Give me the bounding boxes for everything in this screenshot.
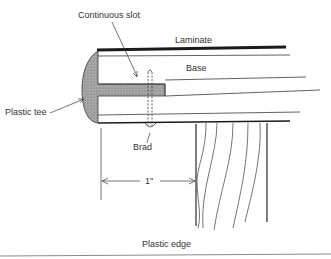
- plastic-edge-diagram: [0, 0, 331, 259]
- continuous-slot-label: Continuous slot: [78, 11, 140, 20]
- base-board: [98, 77, 320, 123]
- bottom-rule: [0, 254, 331, 256]
- dimension-label: 1": [145, 177, 153, 186]
- laminate-layer: [97, 47, 286, 50]
- wood-block: [196, 123, 267, 230]
- base-label: Base: [186, 64, 207, 73]
- plastic-tee-leader: [50, 99, 84, 113]
- diagram-caption: Plastic edge: [142, 240, 191, 249]
- plastic-tee-label: Plastic tee: [5, 108, 47, 117]
- plastic-tee-shape: [82, 51, 165, 123]
- brad-nail: [145, 70, 156, 127]
- laminate-label: Laminate: [175, 36, 212, 45]
- brad-label: Brad: [133, 143, 152, 152]
